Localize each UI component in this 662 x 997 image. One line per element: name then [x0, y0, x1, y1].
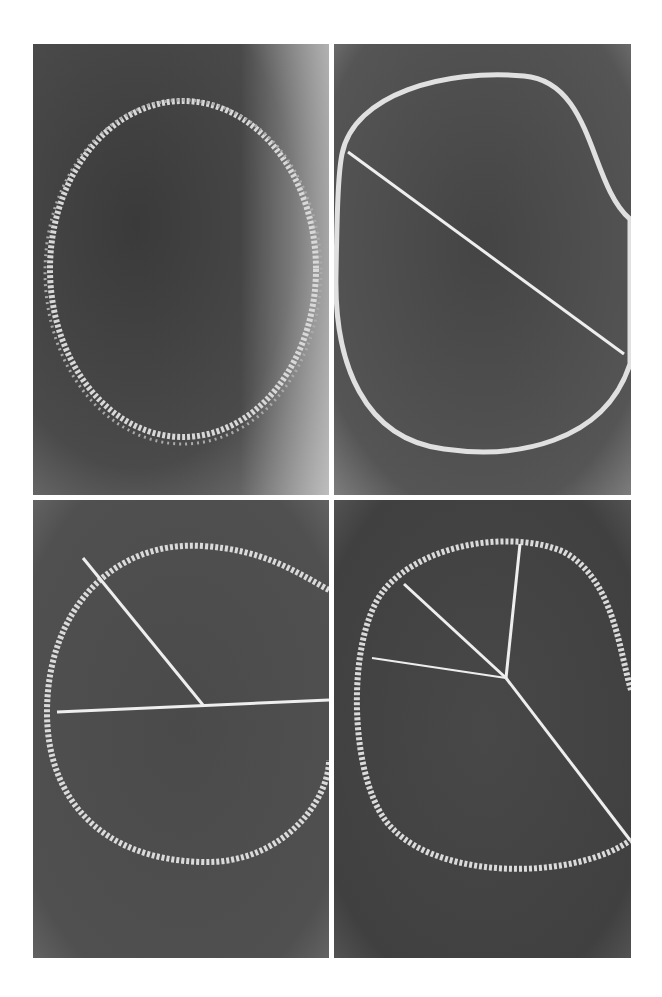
chalk-circle-four-radii-image	[334, 500, 631, 958]
photo-panel-a	[33, 44, 329, 495]
chalk-circle-chord-image	[334, 44, 631, 495]
chalk-circle-diameter-radius-image	[33, 500, 329, 958]
photo-panel-d	[334, 500, 631, 958]
photo-panel-b	[334, 44, 631, 495]
chalk-circle-image	[33, 44, 329, 495]
photo-panel-c	[33, 500, 329, 958]
